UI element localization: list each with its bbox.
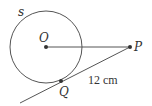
point-p [128,45,132,49]
measurement-pq: 12 cm [88,73,118,87]
label-o: O [39,31,49,45]
tangent-diagram: s O P Q 12 cm [0,0,152,106]
label-p: P [133,40,143,54]
label-q: Q [59,85,69,99]
point-q [59,79,63,83]
label-circle-s: s [18,5,24,19]
point-o [44,45,48,49]
